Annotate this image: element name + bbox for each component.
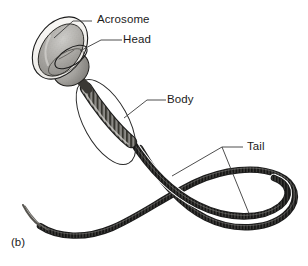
midpiece-striations	[86, 88, 131, 142]
body-midpiece	[64, 70, 148, 174]
label-acrosome: Acrosome	[97, 14, 150, 26]
label-tail: Tail	[247, 141, 265, 153]
label-body: Body	[167, 94, 194, 106]
sperm-illustration	[0, 0, 308, 266]
tail-loop-far	[40, 148, 295, 236]
leader-body	[124, 100, 166, 118]
figure-caption: (b)	[11, 237, 25, 249]
head-group	[21, 6, 99, 93]
tail-loop-bands	[40, 148, 295, 236]
tail-flagellum	[23, 139, 295, 236]
label-head: Head	[123, 34, 151, 46]
sperm-anatomy-figure: Acrosome Head Body Tail (b)	[0, 0, 308, 266]
